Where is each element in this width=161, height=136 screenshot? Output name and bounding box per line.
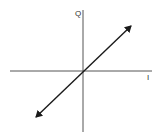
i-axis-label: I <box>147 73 149 82</box>
iq-diagram: Q I <box>0 0 161 136</box>
q-axis-label: Q <box>75 9 81 18</box>
